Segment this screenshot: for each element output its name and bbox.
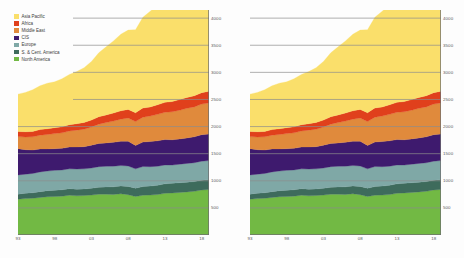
y-tick-label: 2500 [211, 97, 221, 102]
legend-item-label: S. & Cent. America [22, 50, 60, 55]
y-tick-label: 3500 [211, 43, 221, 48]
legend-swatch-icon [14, 50, 19, 55]
legend-swatch-icon [14, 57, 19, 62]
legend-swatch-icon [14, 43, 19, 48]
x-tick-label: 98 [284, 236, 289, 241]
y-tick-label: 1500 [443, 151, 453, 156]
x-tick-label: 18 [199, 236, 204, 241]
y-tick-label: 3500 [443, 43, 453, 48]
x-tick-label: 93 [16, 236, 21, 241]
x-tick-label: 08 [358, 236, 363, 241]
legend-item: S. & Cent. America [14, 48, 110, 55]
y-tick-label: 2000 [443, 124, 453, 129]
x-axis-labels-left: 939803081318 [18, 236, 214, 246]
legend-item-label: North America [22, 57, 51, 62]
x-tick-label: 13 [394, 236, 399, 241]
legend-swatch-icon [14, 36, 19, 41]
y-tick-label: 2500 [443, 97, 453, 102]
legend-item-label: Africa [22, 21, 34, 26]
x-tick-label: 03 [89, 236, 94, 241]
chart-legend: Asia PacificAfricaMiddle EastCISEuropeS.… [14, 13, 110, 63]
y-tick-label: 1500 [211, 151, 221, 156]
y-tick-label: 3000 [443, 70, 453, 75]
y-tick-label: 2000 [211, 124, 221, 129]
legend-item: Africa [14, 20, 110, 27]
y-tick-label: 1000 [443, 178, 453, 183]
stacked-area-chart-figure: 4000350030002500200015001000500 93980308… [0, 0, 464, 258]
legend-item-label: Middle East [22, 28, 46, 33]
x-tick-label: 98 [52, 236, 57, 241]
plot-area-right [250, 10, 441, 235]
legend-item: Asia Pacific [14, 13, 110, 20]
legend-item-label: CIS [22, 35, 30, 40]
y-tick-label: 500 [211, 205, 219, 210]
y-tick-label: 4000 [443, 16, 453, 21]
legend-item: CIS [14, 34, 110, 41]
y-tick-label: 4000 [211, 16, 221, 21]
x-tick-label: 93 [248, 236, 253, 241]
legend-item: North America [14, 56, 110, 63]
legend-item: Europe [14, 41, 110, 48]
chart-panel-left: 4000350030002500200015001000500 93980308… [0, 0, 232, 258]
legend-swatch-icon [14, 21, 19, 26]
y-tick-label: 3000 [211, 70, 221, 75]
x-axis-labels-right: 939803081318 [250, 236, 446, 246]
legend-item-label: Asia Pacific [22, 14, 45, 19]
x-tick-label: 03 [321, 236, 326, 241]
x-tick-label: 13 [162, 236, 167, 241]
x-tick-label: 08 [126, 236, 131, 241]
legend-item-label: Europe [22, 42, 37, 47]
chart-panel-right: 4000350030002500200015001000500 93980308… [232, 0, 464, 258]
y-axis-labels-right: 4000350030002500200015001000500 [443, 0, 464, 258]
y-tick-label: 500 [443, 205, 451, 210]
legend-item: Middle East [14, 27, 110, 34]
legend-swatch-icon [14, 14, 19, 19]
y-tick-label: 1000 [211, 178, 221, 183]
x-tick-label: 18 [431, 236, 436, 241]
plot-svg-right [250, 10, 441, 235]
legend-swatch-icon [14, 28, 19, 33]
